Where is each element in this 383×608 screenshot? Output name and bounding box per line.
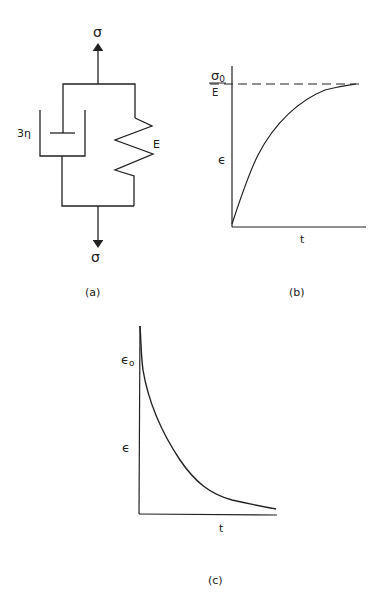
c-ylabel: ϵ	[122, 440, 130, 455]
asymptote-denominator: E	[212, 87, 218, 98]
dashpot-label: 3η	[17, 127, 31, 140]
stress-top-label: σ	[93, 24, 102, 40]
panel-a-model	[40, 47, 153, 244]
figure-canvas: σ σ 3η E (a) σ0 E ϵ t (b) ϵo ϵ t (c)	[0, 0, 383, 608]
stress-bottom-label: σ	[91, 249, 100, 265]
x-axis	[139, 514, 277, 515]
b-xlabel: t	[300, 233, 305, 246]
spring-label: E	[153, 138, 160, 151]
recovery-curve	[140, 326, 276, 509]
panel-b-chart	[210, 66, 366, 227]
caption-c: (c)	[208, 574, 223, 587]
c-xlabel: t	[219, 522, 224, 535]
y-axis	[139, 326, 140, 514]
top-bar	[63, 84, 135, 118]
spring-icon	[115, 118, 153, 206]
creep-curve	[232, 84, 356, 224]
bottom-bar	[62, 156, 134, 206]
caption-b: (b)	[289, 286, 305, 299]
asymptote-numerator: σ0	[211, 68, 225, 84]
initial-strain-label: ϵo	[121, 352, 135, 368]
b-ylabel: ϵ	[218, 152, 226, 167]
panel-c-chart	[139, 326, 277, 515]
caption-a: (a)	[85, 286, 100, 299]
